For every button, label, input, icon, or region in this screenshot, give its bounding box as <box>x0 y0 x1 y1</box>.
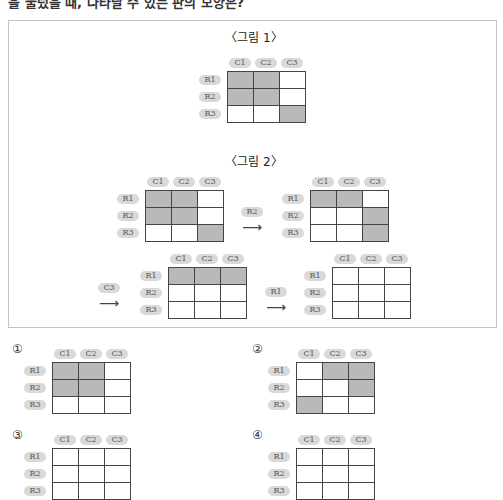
row-label: R3 <box>140 305 162 315</box>
board <box>168 267 247 319</box>
arrow-icon: ⟶ <box>94 296 124 310</box>
cell-empty <box>337 225 363 242</box>
cell-empty <box>195 285 221 302</box>
board <box>310 190 389 242</box>
cell-empty <box>333 302 359 319</box>
column-label: C3 <box>222 254 244 264</box>
row-label: R1 <box>268 366 290 376</box>
cell-empty <box>105 397 131 414</box>
cell-empty <box>53 483 79 500</box>
row-label: R2 <box>199 92 221 102</box>
board <box>52 362 131 414</box>
column-labels: C1C2C3 <box>296 435 374 445</box>
column-label: C1 <box>298 435 320 445</box>
cell-shaded <box>363 225 389 242</box>
row-label: R3 <box>117 228 139 238</box>
cell-shaded <box>172 191 198 208</box>
row-label: R3 <box>268 400 290 410</box>
cell-shaded <box>172 208 198 225</box>
operation-r1: R1 ⟶ <box>261 279 291 314</box>
row-label: R2 <box>304 288 326 298</box>
column-label: C1 <box>334 254 356 264</box>
cell-empty <box>349 397 375 414</box>
option-4-grid: C1C2C3R1R2R3 <box>296 448 375 500</box>
row-label: R3 <box>268 486 290 496</box>
cell-empty <box>280 72 306 89</box>
cell-empty <box>359 302 385 319</box>
cell-empty <box>254 106 280 123</box>
cell-empty <box>105 363 131 380</box>
column-label: C2 <box>80 349 102 359</box>
column-labels: C1C2C3 <box>168 254 246 264</box>
cell-empty <box>105 466 131 483</box>
cell-empty <box>297 483 323 500</box>
option-3-marker[interactable]: ③ <box>12 428 23 442</box>
cell-empty <box>221 302 247 319</box>
cell-shaded <box>349 380 375 397</box>
option-1-marker[interactable]: ① <box>12 342 23 356</box>
row-label: R2 <box>140 288 162 298</box>
column-label: C3 <box>364 177 386 187</box>
cell-shaded <box>79 380 105 397</box>
cell-shaded <box>363 208 389 225</box>
figure2-step3-grid: C1C2C3R1R2R3 <box>168 267 247 319</box>
cell-empty <box>53 449 79 466</box>
row-label: R3 <box>24 400 46 410</box>
cell-empty <box>146 225 172 242</box>
column-label: C2 <box>196 254 218 264</box>
column-label: C1 <box>147 177 169 187</box>
row-label: R1 <box>282 194 304 204</box>
cell-shaded <box>254 89 280 106</box>
row-label: R3 <box>24 486 46 496</box>
cell-empty <box>323 466 349 483</box>
cell-empty <box>79 466 105 483</box>
cell-empty <box>333 285 359 302</box>
option-2-marker[interactable]: ② <box>252 342 263 356</box>
row-labels: R1R2R3 <box>24 362 46 413</box>
board <box>145 190 224 242</box>
cell-empty <box>79 449 105 466</box>
cell-empty <box>363 191 389 208</box>
cell-empty <box>53 397 79 414</box>
figure2-step4-grid: C1C2C3R1R2R3 <box>332 267 411 319</box>
cell-empty <box>323 483 349 500</box>
cell-empty <box>172 225 198 242</box>
column-labels: C1C2C3 <box>332 254 410 264</box>
board <box>52 448 131 500</box>
figure2-title: 〈그림 2〉 <box>204 152 304 169</box>
cell-empty <box>359 268 385 285</box>
cell-shaded <box>280 106 306 123</box>
cell-empty <box>333 268 359 285</box>
column-label: C1 <box>170 254 192 264</box>
column-label: C3 <box>281 58 303 68</box>
column-labels: C1C2C3 <box>52 435 130 445</box>
column-label: C3 <box>386 254 408 264</box>
cell-empty <box>297 363 323 380</box>
operation-r2: R2 ⟶ <box>237 199 267 234</box>
cell-shaded <box>195 268 221 285</box>
cell-empty <box>349 449 375 466</box>
row-label: R1 <box>24 366 46 376</box>
row-labels: R1R2R3 <box>268 448 290 499</box>
column-label: C2 <box>173 177 195 187</box>
cell-empty <box>349 466 375 483</box>
column-label: C2 <box>324 349 346 359</box>
column-label: C3 <box>350 349 372 359</box>
row-labels: R1R2R3 <box>24 448 46 499</box>
column-label: C3 <box>106 349 128 359</box>
cell-empty <box>297 466 323 483</box>
column-label: C3 <box>350 435 372 445</box>
option-4-marker[interactable]: ④ <box>252 428 263 442</box>
option-2-grid: C1C2C3R1R2R3 <box>296 362 375 414</box>
column-labels: C1C2C3 <box>227 58 305 68</box>
row-label: R1 <box>24 452 46 462</box>
column-label: C2 <box>324 435 346 445</box>
column-label: C1 <box>54 435 76 445</box>
cell-shaded <box>146 208 172 225</box>
cell-shaded <box>146 191 172 208</box>
option-3-grid: C1C2C3R1R2R3 <box>52 448 131 500</box>
row-labels: R1R2R3 <box>282 190 304 241</box>
board <box>296 448 375 500</box>
figure1-title: 〈그림 1〉 <box>204 28 304 45</box>
cell-empty <box>169 285 195 302</box>
